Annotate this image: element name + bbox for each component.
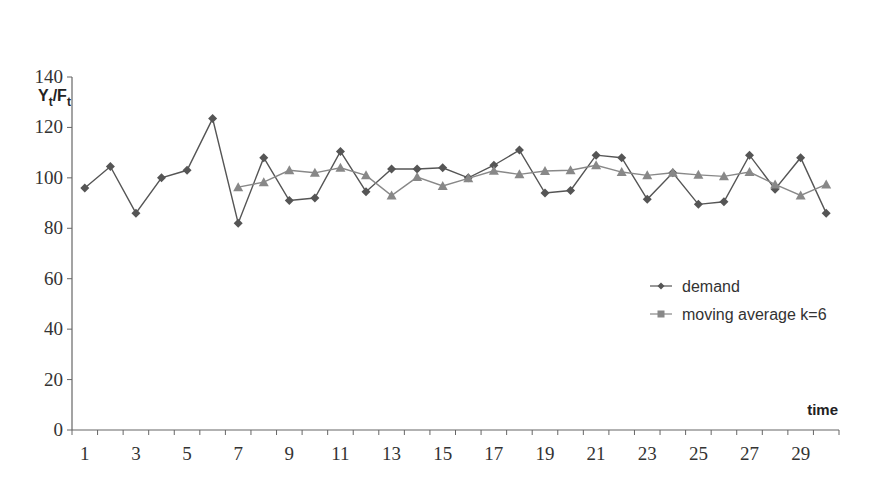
svg-text:Yt/Ft: Yt/Ft (38, 87, 71, 109)
diamond-marker-icon (438, 163, 447, 172)
legend-item-moving-average: moving average k=6 (650, 306, 827, 323)
legend-label: moving average k=6 (682, 306, 827, 323)
x-axis-title: time (807, 401, 838, 418)
triangle-marker-icon (591, 160, 601, 169)
series-demand (80, 114, 830, 228)
x-tick-label: 13 (382, 443, 401, 464)
y-tick-label: 140 (35, 66, 64, 87)
diamond-marker-icon (131, 209, 140, 218)
x-tick-label: 23 (638, 443, 657, 464)
diamond-marker-icon (259, 153, 268, 162)
x-tick-label: 15 (433, 443, 452, 464)
diamond-marker-icon (285, 196, 294, 205)
diamond-marker-icon (157, 173, 166, 182)
diamond-marker-icon (822, 209, 831, 218)
y-tick-label: 100 (35, 167, 64, 188)
x-tick-label: 9 (285, 443, 295, 464)
triangle-marker-icon (796, 191, 806, 200)
series-moving-average (233, 160, 831, 199)
triangle-marker-icon (821, 179, 831, 188)
y-tick-label: 40 (44, 318, 63, 339)
y-axis-title: Yt/Ft (38, 87, 71, 109)
x-tick-label: 27 (740, 443, 759, 464)
diamond-marker-icon (208, 114, 217, 123)
x-tick-label: 3 (131, 443, 141, 464)
triangle-marker-icon (259, 177, 269, 186)
diamond-marker-icon (617, 153, 626, 162)
diamond-marker-icon (592, 151, 601, 160)
y-tick-label: 80 (44, 217, 63, 238)
y-tick-label: 0 (54, 419, 64, 440)
triangle-marker-icon (335, 163, 345, 172)
diamond-marker-icon (336, 147, 345, 156)
diamond-marker-icon (566, 186, 575, 195)
x-tick-label: 5 (182, 443, 192, 464)
plot-area (80, 114, 831, 228)
x-tick-label: 11 (331, 443, 349, 464)
triangle-marker-icon (284, 165, 294, 174)
diamond-marker-icon (234, 219, 243, 228)
diamond-marker-icon (540, 188, 549, 197)
diamond-marker-icon (310, 194, 319, 203)
diamond-marker-icon (719, 197, 728, 206)
x-tick-label: 7 (233, 443, 243, 464)
y-tick-label: 120 (35, 116, 64, 137)
x-tick-label: 21 (587, 443, 606, 464)
diamond-marker-icon (183, 166, 192, 175)
legend: demand moving average k=6 (650, 278, 827, 323)
x-tick-label: 29 (791, 443, 810, 464)
x-tick-label: 19 (535, 443, 554, 464)
legend-label: demand (682, 278, 740, 295)
y-tick-label: 20 (44, 369, 63, 390)
diamond-marker-icon (658, 283, 665, 290)
triangle-marker-icon (412, 172, 422, 181)
x-tick-label: 17 (484, 443, 503, 464)
square-marker-icon (658, 311, 665, 318)
triangle-marker-icon (745, 167, 755, 176)
legend-item-demand: demand (650, 278, 740, 295)
diamond-marker-icon (515, 146, 524, 155)
line-chart: Yt/Ft 020406080100120140 135791113151719… (0, 0, 883, 503)
y-axis-ticks: 020406080100120140 (35, 66, 73, 440)
x-tick-label: 1 (80, 443, 90, 464)
x-axis-ticks: 1357911131517192123252729 (72, 430, 839, 464)
y-tick-label: 60 (44, 268, 63, 289)
x-tick-label: 25 (689, 443, 708, 464)
axes (72, 77, 839, 430)
